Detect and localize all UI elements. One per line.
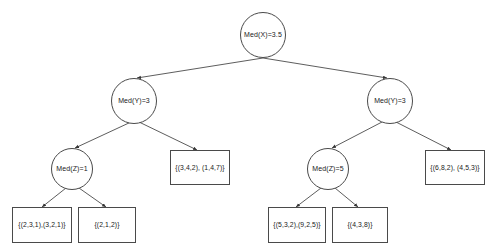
- node-label: {(6,8,2), (4,5,3)}: [430, 164, 479, 171]
- node-label: Med(Z)=5: [312, 165, 343, 173]
- tree-edge-left-z-to-leaf-2: [79, 188, 106, 207]
- leaf-node-leaf-2: {(2,1,2)}: [78, 207, 136, 243]
- node-label: Med(Y)=3: [118, 97, 150, 105]
- node-label: Med(Z)=1: [56, 165, 87, 173]
- decision-node-left-y: Med(Y)=3: [111, 78, 157, 124]
- decision-node-left-z: Med(Z)=1: [51, 148, 93, 190]
- tree-edge-right-y-to-right-z: [332, 122, 382, 148]
- node-label: Med(Y)=3: [374, 97, 406, 105]
- kd-tree-diagram: Med(X)=3.5Med(Y)=3Med(Y)=3Med(Z)=1{(3,4,…: [0, 0, 502, 251]
- decision-node-root: Med(X)=3.5: [240, 12, 286, 58]
- node-label: {(2,3,1),(3,2,1)}: [18, 221, 65, 228]
- tree-edge-right-z-to-leaf-3: [296, 188, 321, 207]
- decision-node-right-y: Med(Y)=3: [367, 78, 413, 124]
- leaf-node-leaf-mid-left: {(3,4,2), (1,4,7)}: [170, 150, 230, 185]
- node-label: {(3,4,2), (1,4,7)}: [175, 164, 224, 171]
- node-label: Med(X)=3.5: [244, 31, 282, 39]
- leaf-node-leaf-3: {(5,3,2),(9,2,5)}: [268, 207, 326, 243]
- tree-edge-left-y-to-left-z: [75, 122, 131, 148]
- leaf-node-leaf-right-far: {(6,8,2), (4,5,3)}: [425, 150, 485, 185]
- node-label: {(2,1,2)}: [94, 221, 119, 228]
- tree-edge-root-to-left-y: [137, 58, 263, 78]
- tree-edge-left-z-to-leaf-1: [42, 188, 66, 207]
- tree-edge-root-to-right-y: [263, 58, 387, 78]
- leaf-node-leaf-1: {(2,3,1),(3,2,1)}: [12, 207, 72, 243]
- node-label: {(4,3,8)}: [347, 221, 372, 228]
- decision-node-right-z: Med(Z)=5: [307, 148, 349, 190]
- node-label: {(5,3,2),(9,2,5)}: [273, 221, 320, 228]
- tree-edge-right-y-to-leaf-right-far: [396, 122, 451, 150]
- tree-edge-right-z-to-leaf-4: [335, 188, 358, 207]
- leaf-node-leaf-4: {(4,3,8)}: [332, 207, 388, 243]
- tree-edge-left-y-to-leaf-mid-left: [139, 122, 197, 150]
